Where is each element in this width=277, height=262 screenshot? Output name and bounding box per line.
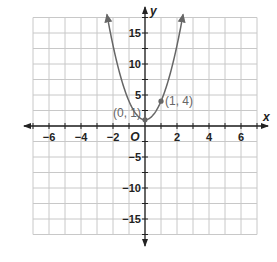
data-point-marker [142,117,147,122]
data-point-label: (0, 1) [113,106,141,120]
y-axis-label: y [149,4,158,18]
axes: xy [24,4,271,246]
x-tick-label: 4 [206,131,213,143]
x-tick-label: 6 [238,131,244,143]
x-tick-label: −6 [43,131,56,143]
origin-label: O [130,130,140,144]
y-tick-label: −15 [122,213,141,225]
data-point-marker [158,99,163,104]
x-tick-label: 2 [174,131,180,143]
y-tick-label: −10 [122,182,141,194]
data-points: (0, 1)(1, 4) [113,94,193,122]
data-point-label: (1, 4) [165,94,193,108]
y-tick-label: 5 [135,89,141,101]
y-tick-label: −5 [128,151,141,163]
x-tick-label: −2 [107,131,120,143]
y-tick-label: 10 [129,58,141,70]
y-tick-label: 15 [129,27,141,39]
x-axis-label: x [262,110,271,124]
coordinate-plane-chart: xy −6−4−224615105−5−10−15O (0, 1)(1, 4) [0,0,277,262]
x-tick-label: −4 [75,131,88,143]
